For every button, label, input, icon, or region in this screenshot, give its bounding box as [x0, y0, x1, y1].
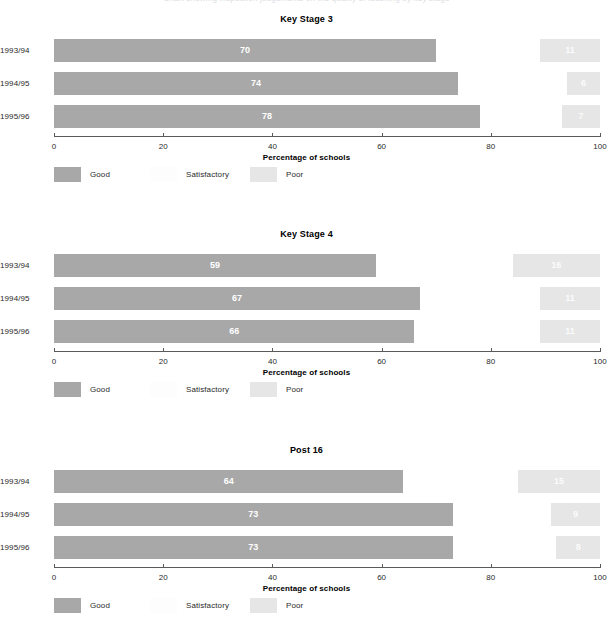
chart-page: Chart showing inspection judgements on t… [0, 0, 613, 635]
axis-tick-label: 60 [377, 357, 386, 366]
bar-row: 1995/96 66 11 [0, 320, 613, 343]
bar-segment-good[interactable]: 73 [54, 536, 453, 559]
row-year-label: 1993/94 [0, 39, 48, 62]
bar-segment-poor[interactable]: 11 [540, 39, 600, 62]
bar-segment-good[interactable]: 78 [54, 105, 480, 128]
row-year-label: 1995/96 [0, 320, 48, 343]
axis-tick [54, 348, 55, 352]
bar-track: 70 11 [54, 39, 600, 62]
legend-label: Satisfactory [186, 601, 229, 610]
legend-item-good[interactable]: Good [54, 165, 110, 181]
axis-tick-label: 100 [593, 357, 606, 366]
chart-title: Key Stage 4 [0, 227, 613, 241]
bar-segment-good[interactable]: 66 [54, 320, 414, 343]
legend-item-good[interactable]: Good [54, 596, 110, 612]
axis-tick [600, 348, 601, 352]
x-axis: 020406080100 [54, 351, 600, 352]
axis-tick-label: 20 [159, 142, 168, 151]
bar-segment-poor[interactable]: 9 [551, 503, 600, 526]
row-year-label: 1993/94 [0, 470, 48, 493]
x-axis: 020406080100 [54, 567, 600, 568]
chart-post-16: Post 16 1993/94 64 15 1994/95 73 9 1995/… [0, 443, 613, 574]
plot-area: 1993/94 59 16 1994/95 67 11 1995/96 66 1… [0, 252, 613, 358]
bar-track: 66 11 [54, 320, 600, 343]
bar-segment-poor[interactable]: 11 [540, 287, 600, 310]
bar-segment-good[interactable]: 64 [54, 470, 403, 493]
bar-track: 74 6 [54, 72, 600, 95]
bar-segment-good[interactable]: 70 [54, 39, 436, 62]
axis-tick-label: 40 [268, 573, 277, 582]
legend-item-satisfactory[interactable]: Satisfactory [150, 165, 229, 181]
legend-item-satisfactory[interactable]: Satisfactory [150, 380, 229, 396]
row-year-label: 1995/96 [0, 105, 48, 128]
axis-tick-label: 20 [159, 357, 168, 366]
legend-label: Poor [286, 385, 303, 394]
bar-row: 1993/94 70 11 [0, 39, 613, 62]
legend-swatch-poor-icon [250, 598, 277, 613]
legend-swatch-poor-icon [250, 382, 277, 397]
plot-area: 1993/94 70 11 1994/95 74 6 1995/96 78 7 [0, 37, 613, 143]
chart-key-stage-4: Key Stage 4 1993/94 59 16 1994/95 67 11 … [0, 227, 613, 358]
chart-title: Post 16 [0, 443, 613, 457]
row-year-label: 1993/94 [0, 254, 48, 277]
row-year-label: 1994/95 [0, 503, 48, 526]
legend-item-poor[interactable]: Poor [250, 596, 303, 612]
bar-track: 67 11 [54, 287, 600, 310]
bar-track: 64 15 [54, 470, 600, 493]
legend-label: Good [90, 601, 110, 610]
axis-tick [382, 133, 383, 137]
axis-tick-label: 100 [593, 142, 606, 151]
x-axis-title: Percentage of schools [0, 584, 613, 593]
legend-swatch-satisfactory-icon [150, 382, 177, 397]
axis-tick-label: 60 [377, 573, 386, 582]
axis-tick [491, 348, 492, 352]
axis-tick-label: 0 [52, 142, 56, 151]
bar-segment-poor[interactable]: 6 [567, 72, 600, 95]
row-year-label: 1995/96 [0, 536, 48, 559]
bar-segment-poor[interactable]: 15 [518, 470, 600, 493]
axis-tick [382, 564, 383, 568]
axis-tick-label: 40 [268, 142, 277, 151]
legend-label: Good [90, 385, 110, 394]
legend-swatch-good-icon [54, 167, 81, 182]
bar-segment-poor[interactable]: 8 [556, 536, 600, 559]
legend-item-satisfactory[interactable]: Satisfactory [150, 596, 229, 612]
legend-item-poor[interactable]: Poor [250, 165, 303, 181]
plot-area: 1993/94 64 15 1994/95 73 9 1995/96 73 8 [0, 468, 613, 574]
x-axis: 020406080100 [54, 136, 600, 137]
legend-item-poor[interactable]: Poor [250, 380, 303, 396]
axis-tick [163, 348, 164, 352]
row-year-label: 1994/95 [0, 72, 48, 95]
chart-key-stage-3: Key Stage 3 1993/94 70 11 1994/95 74 6 1… [0, 12, 613, 143]
bar-row: 1994/95 73 9 [0, 503, 613, 526]
axis-tick-label: 20 [159, 573, 168, 582]
axis-tick-label: 40 [268, 357, 277, 366]
axis-tick-label: 80 [486, 573, 495, 582]
axis-tick [272, 348, 273, 352]
axis-tick-label: 60 [377, 142, 386, 151]
x-axis-title: Percentage of schools [0, 368, 613, 377]
bar-segment-good[interactable]: 73 [54, 503, 453, 526]
legend-item-good[interactable]: Good [54, 380, 110, 396]
axis-tick-label: 100 [593, 573, 606, 582]
bar-track: 73 9 [54, 503, 600, 526]
legend-swatch-good-icon [54, 598, 81, 613]
legend-label: Good [90, 170, 110, 179]
legend-swatch-poor-icon [250, 167, 277, 182]
legend-label: Satisfactory [186, 170, 229, 179]
bar-segment-good[interactable]: 67 [54, 287, 420, 310]
axis-tick [382, 348, 383, 352]
row-year-label: 1994/95 [0, 287, 48, 310]
axis-tick-label: 0 [52, 357, 56, 366]
bar-segment-good[interactable]: 59 [54, 254, 376, 277]
bar-segment-good[interactable]: 74 [54, 72, 458, 95]
bar-segment-poor[interactable]: 16 [513, 254, 600, 277]
legend-label: Poor [286, 170, 303, 179]
bar-segment-poor[interactable]: 7 [562, 105, 600, 128]
legend-swatch-good-icon [54, 382, 81, 397]
axis-tick [600, 564, 601, 568]
axis-tick [163, 133, 164, 137]
axis-tick [491, 133, 492, 137]
axis-tick [54, 133, 55, 137]
bar-segment-poor[interactable]: 11 [540, 320, 600, 343]
